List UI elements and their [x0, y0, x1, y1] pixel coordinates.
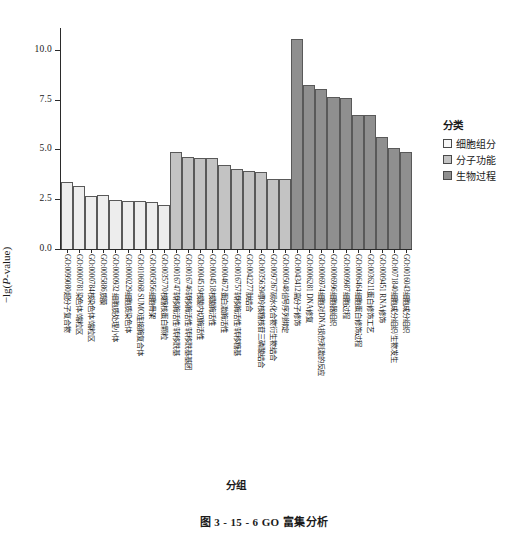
y-axis-tick-label: 0.0	[40, 244, 52, 254]
x-axis-label: GO:0009987细胞过程	[342, 254, 349, 319]
x-axis-label: GO:0005886质膜	[100, 254, 107, 305]
x-axis-label: GO:0000784核染色体/端粒区	[88, 254, 95, 342]
x-axis-label-cell: GO:0006281 DNA修复	[303, 254, 315, 454]
x-axis-label-cell: GO:0016757转移酶活性/转移糖基	[231, 254, 243, 454]
legend: 分类 细胞组分分子功能生物过程	[443, 117, 496, 184]
x-axis-tick	[340, 249, 352, 253]
x-axis-tick	[109, 249, 121, 253]
x-axis-label-cell: GO:0005048信号序列绑定	[279, 254, 291, 454]
x-axis-tick	[134, 249, 146, 253]
x-axis-label: GO:0004518核酸酶活性	[209, 254, 216, 326]
legend-entry: 生物过程	[443, 168, 496, 183]
x-axis-label-cell: GO:0005886质膜	[97, 254, 109, 454]
y-axis-tick	[55, 249, 60, 250]
bar	[61, 182, 73, 249]
y-axis-tick-label: 2.5	[40, 194, 52, 204]
x-axis-label: GO:0006464细胞蛋白修饰过程	[354, 254, 361, 347]
x-axis-label-cell: GO:0009451 RNA修饰	[376, 254, 388, 454]
bar	[303, 85, 315, 249]
x-axis-label: GO:0097367碳水化合物衍生物结合	[269, 254, 276, 361]
x-axis-tick	[243, 249, 255, 253]
x-axis-tick	[158, 249, 170, 253]
x-axis-label: GO:0016747转移酶活性/转移酰基	[172, 254, 179, 356]
x-axis-label: GO:0043412高分子修饰	[293, 254, 300, 326]
x-axis-label: GO:0006996细胞器组织	[330, 254, 337, 326]
bar	[182, 157, 194, 249]
x-axis-tick	[279, 249, 291, 253]
bar	[109, 200, 121, 249]
x-axis-label: GO:0035770核糖核蛋白颗粒	[160, 254, 167, 340]
x-axis-label: GO:0016757转移酶活性/转移糖基	[233, 254, 240, 356]
x-axis-label: GO:0071840细胞成分组织/生物发生	[390, 254, 397, 363]
x-axis-label: GO:0016746转移酶活性/转移酰基基团	[184, 254, 191, 369]
x-axis-label: GO:0005856细胞骨架	[148, 254, 155, 319]
figure-caption: 图 3 - 15 - 6 GO 富集分析	[0, 513, 528, 529]
x-axis-tick	[170, 249, 182, 253]
x-axis-title: 分组	[60, 477, 412, 492]
x-axis-label-cell: GO:0000229细胞质染色体	[122, 254, 134, 454]
x-axis-label: GO:0004672蛋白激酶活性	[221, 254, 228, 333]
x-axis-label: GO:0106068 SUMO连接酶复合体	[136, 254, 143, 356]
y-axis-tick	[55, 199, 60, 200]
legend-entry: 细胞组分	[443, 136, 496, 151]
x-axis-label-cell: GO:0009987细胞过程	[340, 254, 352, 454]
x-axis-tick	[255, 249, 267, 253]
x-axis-tick	[291, 249, 303, 253]
x-axis-label-cell: GO:0071840细胞成分组织/生物发生	[388, 254, 400, 454]
x-axis-tick	[73, 249, 85, 253]
bar	[340, 98, 352, 249]
bar	[352, 115, 364, 249]
x-axis-label-cell: GO:0043412高分子修饰	[291, 254, 303, 454]
x-axis-label-cell: GO:0000784核染色体/端粒区	[85, 254, 97, 454]
y-axis-tick-label: 10.0	[35, 45, 52, 55]
bar	[376, 137, 388, 249]
bar	[134, 201, 146, 249]
x-axis-label-cell: GO:0006996细胞器组织	[327, 254, 339, 454]
bar	[73, 186, 85, 249]
x-axis-tick	[182, 249, 194, 253]
x-axis-tick	[388, 249, 400, 253]
x-axis-label-cell: GO:0004518核酸酶活性	[206, 254, 218, 454]
x-axis-label: GO:0006281 DNA修复	[306, 254, 313, 323]
x-axis-label: GO:0035639嘌呤核糖核苷三磷酸结合	[257, 254, 264, 368]
x-axis-label: GO:0006974细胞对DNA损伤刺激的反应	[318, 254, 325, 376]
x-axis-label-cell: GO:0016746转移酶活性/转移酰基基团	[182, 254, 194, 454]
legend-label: 细胞组分	[456, 136, 496, 151]
x-axis-label-cell: GO:0099080超分子复合物	[61, 254, 73, 454]
plot-area: 0.02.55.07.510.0 GO:0099080超分子复合物GO:0000…	[60, 28, 412, 249]
x-axis-label: GO:0009451 RNA修饰	[378, 254, 385, 322]
x-axis-label: GO:0099080超分子复合物	[63, 254, 70, 333]
x-axis-label-cell: GO:0006464细胞蛋白修饰过程	[352, 254, 364, 454]
legend-entry: 分子功能	[443, 152, 496, 167]
legend-swatch	[443, 139, 452, 148]
legend-label: 分子功能	[456, 152, 496, 167]
bar	[158, 205, 170, 249]
x-axis-labels: GO:0099080超分子复合物GO:0000781染色体/端粒区GO:0000…	[61, 254, 412, 454]
legend-title: 分类	[443, 117, 496, 132]
x-axis-tick	[122, 249, 134, 253]
bar	[267, 179, 279, 249]
x-axis-label: GO:0016043细胞成分组织	[402, 254, 409, 333]
x-axis-label-cell: GO:0000781染色体/端粒区	[73, 254, 85, 454]
y-axis-tick-label: 5.0	[40, 145, 52, 155]
x-axis-label-cell: GO:0004672蛋白激酶活性	[218, 254, 230, 454]
legend-label: 生物过程	[456, 168, 496, 183]
x-axis-tick	[97, 249, 109, 253]
x-axis-tick	[315, 249, 327, 253]
x-axis-label: GO:0000932 细胞质处理小体	[112, 254, 119, 342]
bar	[194, 158, 206, 249]
y-axis-tick-label: 7.5	[40, 95, 52, 105]
x-axis-label: GO:0005048信号序列绑定	[281, 254, 288, 333]
x-axis-tick	[303, 249, 315, 253]
bar	[400, 152, 412, 249]
x-axis-label: GO:0042277肽结合	[245, 254, 252, 312]
x-axis-tick	[267, 249, 279, 253]
bar	[327, 97, 339, 249]
bar	[231, 169, 243, 249]
bar-series	[61, 28, 412, 249]
bar	[364, 115, 376, 249]
x-axis-tick	[364, 249, 376, 253]
x-axis-tick	[352, 249, 364, 253]
x-axis-tick	[327, 249, 339, 253]
x-axis-label-cell: GO:0004519核酸内切酶活性	[194, 254, 206, 454]
